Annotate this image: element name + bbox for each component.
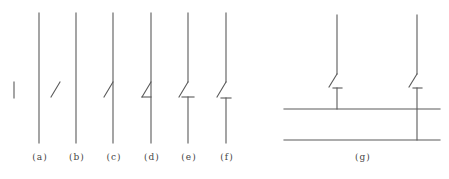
panel-e [179, 13, 194, 143]
panel-c [104, 13, 113, 143]
panel-label-f: (f) [220, 152, 233, 162]
panel-g [284, 15, 440, 140]
contact-blade [179, 82, 188, 97]
panel-label-e: (e) [181, 152, 196, 162]
panel-label-a: (a) [32, 152, 47, 162]
left-contact-blade [329, 74, 337, 87]
panel-f [217, 13, 231, 143]
panel-label-c: (c) [106, 152, 121, 162]
panel-label-d: (d) [144, 152, 160, 162]
right-contact-blade [409, 74, 417, 87]
contact-blade [217, 82, 226, 97]
panel-d [142, 13, 151, 143]
panel-b [51, 13, 76, 143]
contact-blade [142, 82, 151, 97]
panel-a [14, 13, 39, 143]
panel-label-b: (b) [69, 152, 85, 162]
contact-blade [51, 82, 60, 97]
panel-label-g: (g) [355, 152, 371, 162]
contact-blade [104, 82, 113, 97]
